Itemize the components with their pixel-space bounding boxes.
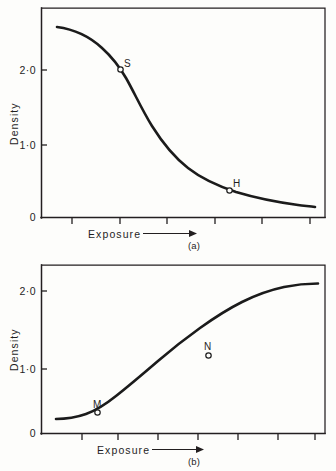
y-tick-label-a-0: 0 bbox=[12, 211, 36, 223]
marker-label-s: S bbox=[124, 58, 131, 69]
marker-point-m bbox=[95, 410, 100, 415]
chart-panel-b: 2·0 1·0 0 Density Exposure M N (b) bbox=[0, 240, 336, 471]
plot-frame-a bbox=[41, 8, 325, 218]
y-axis-title-b: Density bbox=[8, 328, 20, 371]
plot-graphics-a bbox=[0, 0, 336, 240]
y-axis-title-a: Density bbox=[8, 102, 20, 145]
y-tick-label-b-2: 2·0 bbox=[12, 285, 36, 297]
marker-label-n: N bbox=[204, 341, 212, 352]
x-axis-title-b: Exposure bbox=[97, 444, 150, 456]
chart-panel-a: 2·0 1·0 0 Density Exposure S H (a) bbox=[0, 0, 336, 240]
x-axis-title-a: Exposure bbox=[88, 228, 141, 240]
plot-frame-b bbox=[41, 265, 325, 434]
y-tick-label-a-2: 2·0 bbox=[12, 64, 36, 76]
exposure-arrow-head-a bbox=[189, 230, 197, 237]
y-tick-label-b-0: 0 bbox=[12, 427, 36, 439]
marker-point-s bbox=[118, 67, 123, 72]
marker-label-m: M bbox=[93, 399, 102, 410]
marker-point-h bbox=[227, 188, 232, 193]
plot-graphics-b bbox=[0, 240, 336, 471]
marker-label-h: H bbox=[233, 178, 241, 189]
exposure-arrow-head-b bbox=[196, 446, 204, 453]
curve-a bbox=[57, 27, 315, 207]
panel-caption-b: (b) bbox=[188, 456, 200, 467]
marker-point-n bbox=[206, 353, 211, 358]
figure-root: 2·0 1·0 0 Density Exposure S H (a) bbox=[0, 0, 336, 471]
